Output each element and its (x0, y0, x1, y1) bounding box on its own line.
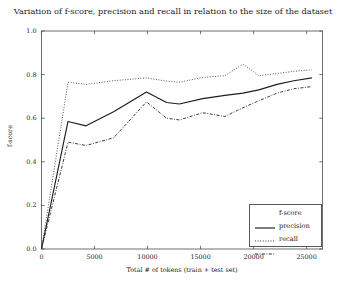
legend-line-sample-icon (255, 240, 275, 241)
x-tick-label: 0 (22, 253, 62, 261)
x-tick-label: 10000 (128, 253, 168, 261)
y-tick-label: 0.8 (15, 71, 37, 79)
y-tick-label: 0.2 (15, 201, 37, 209)
legend-item-recall: recall (250, 234, 323, 248)
legend-item-f-score: f-score (250, 208, 323, 222)
y-tick-label: 1.0 (15, 27, 37, 35)
y-tick-label: 0.0 (15, 245, 37, 253)
legend-item-precision: precision (250, 221, 323, 235)
legend-line-sample-icon (255, 214, 275, 215)
y-tick-label: 0.6 (15, 114, 37, 122)
x-axis-label: Total # of tokens (train + test set) (41, 266, 323, 274)
legend-label: recall (279, 235, 298, 243)
x-tick-label: 25000 (287, 253, 327, 261)
chart-legend: f-scoreprecisionrecall (249, 204, 322, 247)
chart-figure: Variation of f-score, precision and reca… (0, 0, 346, 286)
x-tick-label: 5000 (75, 253, 115, 261)
y-tick-label: 0.4 (15, 158, 37, 166)
x-tick-label: 15000 (181, 253, 221, 261)
legend-line-sample-icon (255, 227, 275, 228)
legend-label: f-score (279, 209, 302, 217)
legend-label: precision (279, 222, 310, 230)
y-axis-label: f-score (6, 113, 14, 159)
